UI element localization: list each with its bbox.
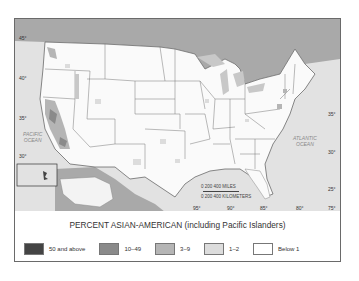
legend-swatch [155,243,175,255]
legend-label: 1–2 [229,246,239,252]
legend-item: Below 1 [253,243,299,255]
latitude-label: 45° [19,35,27,41]
latitude-label: 35° [19,115,27,121]
legend-swatch [99,243,119,255]
legend-item: 1–2 [204,243,239,255]
atlantic-ocean-label: ATLANTIC OCEAN [293,135,317,147]
legend-label: 50 and above [49,246,85,252]
map-frame: 45° 40° 35° 30° 35° 30° 25° 95° 90° 85° … [14,18,341,213]
pacific-ocean-label: PACIFIC OCEAN [23,131,42,143]
legend-label: 3–9 [180,246,190,252]
legend-item: 50 and above [24,243,85,255]
us-map-graphic [15,19,340,212]
legend-swatch [253,243,273,255]
latitude-label: 25° [328,186,336,192]
legend-label: Below 1 [278,246,299,252]
scale-miles-label: 0 200 400 MILES [201,184,236,189]
legend-items: 50 and above 10–49 3–9 1–2 Below 1 [24,243,313,255]
legend-swatch [24,243,44,255]
scale-bar [203,191,239,192]
latitude-label: 30° [19,153,27,159]
latitude-label: 35° [328,111,336,117]
legend-item: 10–49 [99,243,141,255]
scale-km-label: 0 200 400 KILOMETERS [201,194,251,199]
latitude-label: 30° [328,149,336,155]
legend-label: 10–49 [124,246,141,252]
latitude-label: 40° [19,75,27,81]
legend-title: PERCENT ASIAN-AMERICAN (including Pacifi… [15,220,340,230]
legend: PERCENT ASIAN-AMERICAN (including Pacifi… [14,211,341,262]
legend-swatch [204,243,224,255]
hawaii-inset [17,164,57,186]
legend-item: 3–9 [155,243,190,255]
